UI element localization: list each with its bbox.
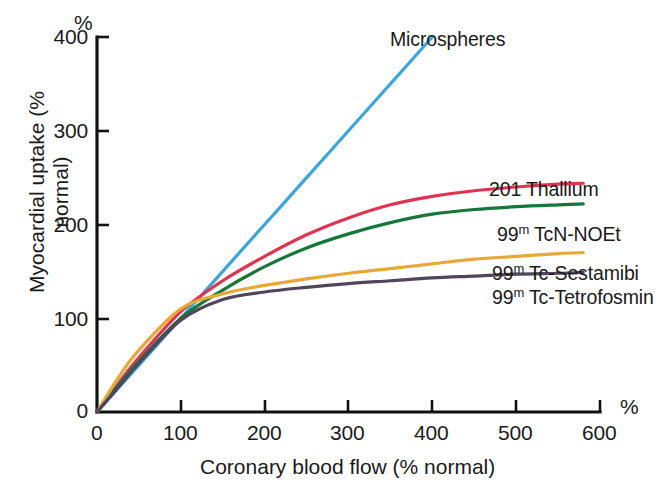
tetrofosmin-compound-name: Tc-Tetrofosmin — [524, 286, 654, 308]
x-tick-label-0: 0 — [91, 422, 102, 443]
series-label-microspheres: Microspheres — [390, 30, 505, 50]
x-axis-title: Coronary blood flow (% normal) — [200, 456, 495, 477]
tetrofosmin-isotope-number: 99 — [492, 286, 513, 308]
y-axis-title-wrap: Myocardial uptake (% normal) — [25, 67, 73, 317]
x-tick-label-200: 200 — [247, 422, 281, 443]
noet-isotope-superscript: m — [518, 222, 529, 237]
sestamibi-compound-name: Tc-Sestamibi — [524, 262, 639, 284]
series-label-tcn-noet: 99m TcN-NOEt — [497, 225, 621, 245]
chart-figure: % 400 300 200 100 0 0 100 200 300 400 50… — [0, 0, 658, 489]
x-tick-label-100: 100 — [163, 422, 197, 443]
noet-isotope-number: 99 — [497, 223, 518, 245]
x-tick-label-400: 400 — [414, 422, 448, 443]
sestamibi-isotope-number: 99 — [492, 262, 513, 284]
y-tick-label-400: 400 — [24, 26, 88, 47]
x-tick-label-500: 500 — [498, 422, 532, 443]
series-label-sestamibi: 99m Tc-Sestamibi — [492, 264, 639, 284]
y-axis-title: Myocardial uptake (% normal) — [25, 91, 72, 293]
series-label-thallium: 201 Thallium — [489, 180, 599, 200]
tetrofosmin-isotope-superscript: m — [513, 285, 524, 300]
x-axis-unit: % — [620, 396, 639, 417]
sestamibi-isotope-superscript: m — [513, 261, 524, 276]
x-tick-label-300: 300 — [330, 422, 364, 443]
noet-compound-name: TcN-NOEt — [529, 223, 620, 245]
series-label-tetrofosmin: 99m Tc-Tetrofosmin — [492, 288, 654, 308]
x-tick-label-600: 600 — [582, 422, 616, 443]
y-tick-label-0: 0 — [52, 400, 88, 421]
